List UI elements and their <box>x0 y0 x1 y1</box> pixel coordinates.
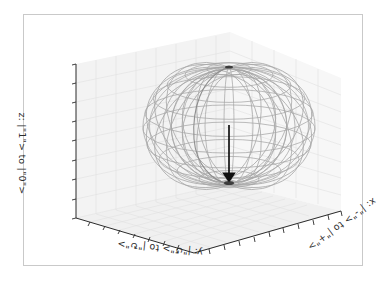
north-pole-marker <box>225 65 233 68</box>
z-axis-ticks <box>72 64 76 219</box>
figure-canvas: z: |"1"> to |"0"> y: |"↺"> to |"↻"> x: |… <box>0 0 384 286</box>
south-pole-marker <box>224 181 234 185</box>
bloch-sphere-plot <box>24 15 362 265</box>
figure-frame: z: |"1"> to |"0"> y: |"↺"> to |"↻"> x: |… <box>23 14 363 266</box>
z-axis-label: z: |"1"> to |"0"> <box>17 112 28 194</box>
